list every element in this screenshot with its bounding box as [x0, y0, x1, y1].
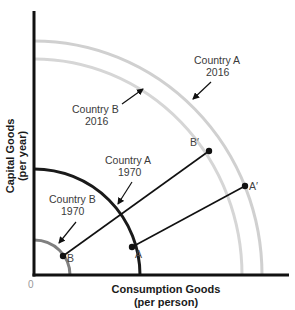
arrow-country-b-2016	[122, 89, 143, 104]
svg-text:Capital Goods: Capital Goods	[4, 119, 16, 194]
curve-country-a-1970	[34, 169, 140, 275]
point-a-prime	[242, 183, 248, 189]
label-country-a-2016: Country A 2016	[194, 54, 240, 78]
svg-text:1970: 1970	[118, 166, 142, 178]
ppf-diagram: B A B′ A′ Country B 2016 Country A 2016 …	[0, 0, 295, 310]
svg-text:Country A: Country A	[105, 154, 151, 166]
svg-text:1970: 1970	[61, 205, 85, 217]
x-axis-title: Consumption Goods (per person)	[112, 283, 221, 308]
point-b-prime	[206, 148, 212, 154]
point-a-label: A	[135, 248, 142, 260]
svg-text:(per person): (per person)	[134, 296, 199, 308]
arrow-country-a-1970	[118, 182, 132, 204]
y-axis-title: Capital Goods (per year)	[4, 119, 28, 194]
label-country-b-1970: Country B 1970	[49, 193, 96, 217]
svg-text:Consumption Goods: Consumption Goods	[112, 283, 221, 295]
point-a-prime-label: A′	[249, 180, 258, 192]
svg-text:Country B: Country B	[49, 193, 96, 205]
svg-text:(per year): (per year)	[16, 131, 28, 181]
label-country-a-1970: Country A 1970	[105, 154, 151, 178]
svg-text:2016: 2016	[85, 115, 109, 127]
origin-label: 0	[28, 279, 34, 290]
svg-text:Country A: Country A	[194, 54, 240, 66]
point-b-prime-label: B′	[190, 136, 199, 148]
svg-text:Country B: Country B	[72, 103, 119, 115]
arrow-country-b-1970	[59, 222, 76, 243]
label-country-b-2016: Country B 2016	[72, 103, 119, 127]
arrow-country-a-2016	[193, 82, 211, 99]
point-b	[60, 253, 66, 259]
point-b-label: B	[67, 252, 74, 264]
svg-text:2016: 2016	[206, 66, 230, 78]
